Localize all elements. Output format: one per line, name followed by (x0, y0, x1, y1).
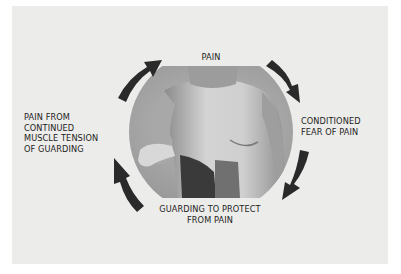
node-muscle-tension-pain: PAIN FROM CONTINUED MUSCLE TENSION OF GU… (24, 112, 98, 154)
node-pain: PAIN (190, 52, 232, 63)
node-guarding: GUARDING TO PROTECT FROM PAIN (140, 204, 280, 225)
node-conditioned-fear: CONDITIONED FEAR OF PAIN (301, 116, 361, 137)
patient-photo (120, 60, 305, 216)
